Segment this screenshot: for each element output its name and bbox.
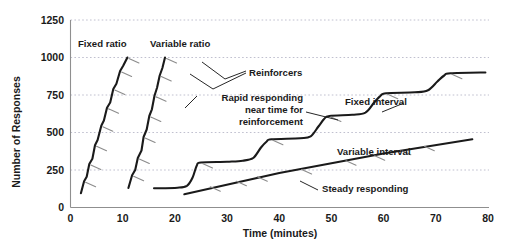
- y-axis-title: Number of Responses: [10, 76, 22, 188]
- cumulative-record-chart: 125010007505002500 01020304050607080 Num…: [0, 0, 513, 243]
- y-tick-250: 250: [46, 164, 64, 176]
- x-tick-70: 70: [430, 212, 442, 224]
- x-tick-80: 80: [482, 212, 494, 224]
- x-tick-20: 20: [169, 212, 181, 224]
- y-tick-750: 750: [46, 89, 64, 101]
- y-tick-500: 500: [46, 126, 64, 138]
- chart-canvas: 125010007505002500 01020304050607080 Num…: [0, 0, 513, 243]
- x-tick-50: 50: [326, 212, 338, 224]
- x-tick-40: 40: [273, 212, 285, 224]
- series-label-variable-ratio: Variable ratio: [150, 38, 210, 49]
- annotation-rapid-responding-line2: near time for: [245, 104, 303, 115]
- x-tick-10: 10: [117, 212, 129, 224]
- y-tick-1000: 1000: [41, 51, 65, 63]
- annotation-rapid-responding-line1: Rapid responding: [221, 92, 303, 103]
- series-label-variable-interval: Variable interval: [337, 146, 411, 157]
- x-tick-60: 60: [378, 212, 390, 224]
- y-tick-1250: 1250: [41, 14, 65, 26]
- annotation-rapid-responding-line3: reinforcement: [239, 116, 304, 127]
- annotation-reinforcers: Reinforcers: [249, 67, 302, 78]
- annotation-steady-responding: Steady responding: [322, 183, 408, 194]
- y-tick-0: 0: [58, 201, 64, 213]
- x-axis-title: Time (minutes): [243, 227, 317, 239]
- x-tick-0: 0: [68, 212, 74, 224]
- x-tick-30: 30: [221, 212, 233, 224]
- series-label-fixed-ratio: Fixed ratio: [78, 38, 127, 49]
